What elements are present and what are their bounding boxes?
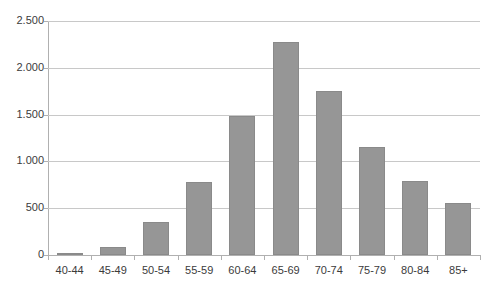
bar-slot [178, 21, 221, 255]
bar[interactable] [143, 222, 169, 255]
x-tick-mark [91, 255, 92, 260]
x-tick-label: 55-59 [178, 264, 221, 276]
x-tick-label: 75-79 [350, 264, 393, 276]
bar-slot [91, 21, 134, 255]
x-tick-mark [134, 255, 135, 260]
bar-slot [48, 21, 91, 255]
bar[interactable] [186, 182, 212, 255]
y-tick-label: 500 [2, 202, 44, 213]
bar-chart: 05001.0001.5002.0002.500 40-4445-4950-54… [0, 0, 492, 293]
x-tick-mark [307, 255, 308, 260]
bar-slot [394, 21, 437, 255]
x-tick-mark [264, 255, 265, 260]
y-tick-label: 2.500 [2, 15, 44, 26]
plot-area [48, 21, 480, 255]
x-tick-label: 40-44 [48, 264, 91, 276]
bar[interactable] [273, 42, 299, 255]
x-tick-mark [394, 255, 395, 260]
bar[interactable] [316, 91, 342, 255]
x-tick-label: 60-64 [221, 264, 264, 276]
y-tick-label: 0 [2, 249, 44, 260]
x-tick-label: 80-84 [394, 264, 437, 276]
bar-slot [437, 21, 480, 255]
bar[interactable] [445, 203, 471, 255]
bar[interactable] [359, 147, 385, 255]
y-tick-label: 2.000 [2, 62, 44, 73]
x-tick-label: 85+ [437, 264, 480, 276]
y-tick-label: 1.500 [2, 109, 44, 120]
bar-slot [134, 21, 177, 255]
x-tick-label: 50-54 [134, 264, 177, 276]
x-tick-mark [480, 255, 481, 260]
x-tick-mark [221, 255, 222, 260]
y-tick-label: 1.000 [2, 155, 44, 166]
bar-slot [350, 21, 393, 255]
x-tick-mark [48, 255, 49, 260]
bar[interactable] [57, 253, 83, 255]
bar[interactable] [229, 116, 255, 255]
x-tick-label: 45-49 [91, 264, 134, 276]
y-axis-labels: 05001.0001.5002.0002.500 [0, 0, 44, 293]
bar-slot [307, 21, 350, 255]
x-tick-label: 65-69 [264, 264, 307, 276]
x-tick-mark [350, 255, 351, 260]
x-tick-mark [437, 255, 438, 260]
bar[interactable] [100, 247, 126, 255]
bar[interactable] [402, 181, 428, 255]
bar-slot [264, 21, 307, 255]
bar-slot [221, 21, 264, 255]
x-tick-label: 70-74 [307, 264, 350, 276]
x-tick-mark [178, 255, 179, 260]
